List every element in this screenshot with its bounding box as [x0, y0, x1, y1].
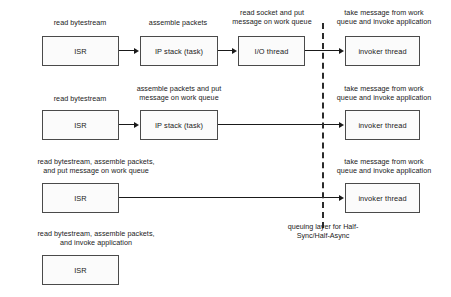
arrow-ipstack-to-iothread-row1: [218, 50, 232, 51]
queuing-layer-divider-label: queuing layer for Half- Sync/Half-Async: [265, 222, 381, 241]
caption-take-message-row3: take message from work queue and invoke …: [318, 157, 450, 176]
box-invoker-thread-row2[interactable]: invoker thread: [345, 110, 420, 140]
box-isr-row2[interactable]: ISR: [42, 110, 119, 140]
arrow-head-isr-to-ipstack-row2: [134, 122, 139, 128]
arrow-ipstack-to-invoker-row2: [218, 124, 339, 125]
box-io-thread-row1[interactable]: I/O thread: [238, 36, 305, 66]
box-isr-row3[interactable]: ISR: [42, 183, 119, 213]
box-ip-stack-row1[interactable]: IP stack (task): [140, 36, 218, 66]
arrow-isr-to-invoker-row3: [119, 197, 339, 198]
queuing-layer-divider: [322, 23, 324, 228]
box-ip-stack-row2[interactable]: IP stack (task): [140, 110, 218, 140]
caption-take-message-row2: take message from work queue and invoke …: [318, 84, 450, 103]
half-sync-half-async-diagram: read bytestream assemble packets read so…: [0, 0, 451, 297]
arrow-isr-to-ipstack-row2: [119, 124, 134, 125]
caption-read-assemble-put-row3: read bytestream, assemble packets, and p…: [8, 157, 184, 176]
box-isr-row4[interactable]: ISR: [42, 255, 119, 285]
box-invoker-thread-row1[interactable]: invoker thread: [345, 36, 420, 66]
arrow-head-isr-to-ipstack-row1: [134, 48, 139, 54]
arrow-head-iothread-to-invoker-row1: [339, 48, 344, 54]
arrow-head-ipstack-to-iothread-row1: [232, 48, 237, 54]
caption-assemble-packets-put-message-row2: assemble packets and put message on work…: [113, 84, 245, 103]
box-isr-row1[interactable]: ISR: [42, 36, 119, 66]
caption-take-message-row1: take message from work queue and invoke …: [318, 8, 450, 27]
arrow-head-ipstack-to-invoker-row2: [339, 122, 344, 128]
arrow-isr-to-ipstack-row1: [119, 50, 134, 51]
caption-read-assemble-invoke-row4: read bytestream, assemble packets, and i…: [8, 229, 184, 248]
box-invoker-thread-row3[interactable]: invoker thread: [345, 183, 420, 213]
arrow-head-isr-to-invoker-row3: [339, 195, 344, 201]
